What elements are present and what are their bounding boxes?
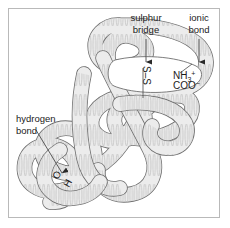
protein-structure-diagram: S–S NH3+ COO– O H <box>0 0 230 228</box>
carboxylate-base: COO <box>173 80 196 91</box>
sulphur-bridge-label-line2: bridge <box>133 24 159 35</box>
ionic-bond-label-line2: bond <box>188 24 209 35</box>
ionic-bond-label-line1: ionic <box>189 12 209 23</box>
figure-page: S–S NH3+ COO– O H <box>0 0 230 228</box>
annotation-sulphur-bridge: sulphur bridge <box>130 12 161 35</box>
carboxylate-label: COO– <box>173 79 200 91</box>
sulphur-bridge-label-line1: sulphur <box>130 12 161 23</box>
ammonium-superscript: + <box>191 70 195 77</box>
diagram-stage: S–S NH3+ COO– O H <box>0 0 230 228</box>
annotation-ionic-bond: ionic bond <box>188 12 209 35</box>
hydrogen-bond-label-line1: hydrogen <box>16 113 56 124</box>
carboxylate-superscript: – <box>196 79 200 86</box>
hydrogen-bond-label-line2: bond <box>16 125 37 136</box>
